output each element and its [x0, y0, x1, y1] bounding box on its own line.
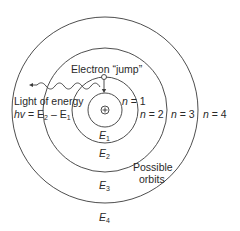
- energy-label-e1: E1: [99, 130, 110, 142]
- electron-jump-label: Electron “jump”: [71, 64, 142, 75]
- photon-arrowhead-icon: [29, 83, 33, 87]
- orbit-label-n1: n = 1: [122, 96, 146, 107]
- photon-wave-icon: [32, 83, 100, 89]
- light-equation: hv = E2 – E1: [14, 109, 71, 121]
- energy-label-e2: E2: [99, 148, 110, 160]
- possible-orbits-label-line2: orbits: [139, 174, 165, 185]
- orbit-label-n2: n = 2: [140, 109, 164, 120]
- electron-icon: [102, 75, 107, 80]
- energy-label-e4: E4: [99, 212, 110, 224]
- energy-label-e3: E3: [99, 180, 110, 192]
- orbit-label-n3: n = 3: [171, 109, 195, 120]
- light-energy-label: Light of energy: [14, 96, 83, 107]
- orbit-label-n4: n = 4: [203, 109, 227, 120]
- possible-orbits-label-line1: Possible: [133, 162, 173, 173]
- jump-arrowhead-icon: [102, 89, 106, 93]
